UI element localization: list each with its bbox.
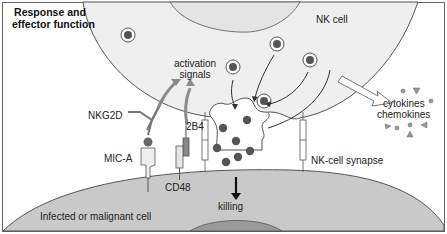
nkg2d-label: NKG2D [88,110,122,121]
cd48-label: CD48 [165,182,191,193]
nk-cell-diagram: Response and effector function NK cell a… [0,0,447,234]
target-cell-label: Infected or malignant cell [40,211,151,222]
signals-line: signals [165,69,225,80]
nk-cell-synapse-label: NK-cell synapse [311,155,383,166]
nk-cell-label: NK cell [316,14,348,25]
killing-label: killing [218,201,243,212]
chemokines-label: chemokines [377,109,430,120]
activation-signals-label: activation signals [165,58,225,80]
panel-title: Response and effector function [12,7,88,30]
cytokines-label: cytokines [383,98,425,109]
activation-line: activation [165,58,225,69]
title-line-2: effector function [12,19,88,31]
mic-a-label: MIC-A [104,153,132,164]
title-line-1: Response and [12,7,88,19]
2b4-label: 2B4 [186,121,204,132]
